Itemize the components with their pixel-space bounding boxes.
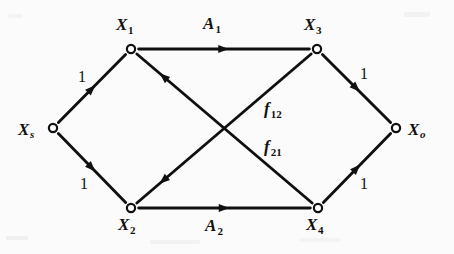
node-label-X1: X1 <box>116 16 134 36</box>
edge-label-X2-X4: A2 <box>205 217 223 237</box>
edge-label-X3-X2: f12 <box>264 100 282 120</box>
scan-speck <box>150 240 200 244</box>
scan-speck <box>6 236 28 240</box>
scan-speck <box>404 12 430 17</box>
scan-speck <box>300 238 340 242</box>
edge-label-subscript: 1 <box>215 23 221 35</box>
node-X2 <box>127 204 135 212</box>
node-label-base: X <box>408 120 419 139</box>
graph-canvas <box>0 0 454 254</box>
edge-label-base: f <box>264 99 270 118</box>
node-Xo <box>392 124 400 132</box>
edge-label-X4-X1: f21 <box>264 138 282 158</box>
node-label-base: X <box>304 15 315 34</box>
node-label-X3: X3 <box>304 16 322 36</box>
edge-label-X1-X3: A1 <box>203 15 221 35</box>
arrowhead-X2-X4 <box>219 204 230 212</box>
edge-label-Xs-X1: 1 <box>78 69 86 85</box>
node-label-base: X <box>118 215 129 234</box>
edge-label-subscript: 12 <box>271 108 282 120</box>
node-label-base: X <box>116 15 127 34</box>
node-label-X2: X2 <box>118 216 136 236</box>
node-label-base: X <box>18 120 29 139</box>
edge-label-base: A <box>203 14 214 33</box>
node-label-Xs: Xs <box>18 121 34 140</box>
node-label-subscript: 4 <box>318 224 324 236</box>
edge-label-X3-Xo: 1 <box>360 66 368 82</box>
node-label-subscript: 3 <box>316 24 322 36</box>
node-label-X4: X4 <box>306 216 324 236</box>
edge-label-subscript: 21 <box>271 146 282 158</box>
edge-label-base: A <box>205 216 216 235</box>
node-label-subscript: o <box>420 128 426 140</box>
node-X1 <box>127 45 135 53</box>
edge-layer <box>58 49 390 208</box>
flow-network-figure: XsX1X2X3X4Xo 11A1A211f12f21 <box>0 0 454 254</box>
edge-label-Xs-X2: 1 <box>80 176 88 192</box>
edge-label-subscript: 2 <box>217 225 223 237</box>
node-X3 <box>313 45 321 53</box>
node-X4 <box>314 204 322 212</box>
node-Xs <box>49 124 57 132</box>
node-label-subscript: 2 <box>130 224 136 236</box>
scan-speck <box>8 14 22 18</box>
node-label-base: X <box>306 215 317 234</box>
node-label-subscript: s <box>30 128 34 140</box>
edge-label-X4-Xo: 1 <box>360 176 368 192</box>
node-label-subscript: 1 <box>128 24 134 36</box>
edge-label-base: f <box>264 137 270 156</box>
node-label-Xo: Xo <box>408 121 426 140</box>
arrowhead-X1-X3 <box>218 45 229 53</box>
